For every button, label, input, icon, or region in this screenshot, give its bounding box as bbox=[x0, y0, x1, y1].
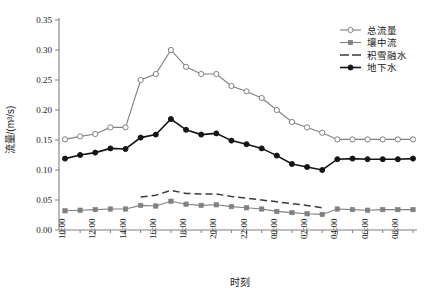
chart-canvas: 0.000.050.100.150.200.250.300.35 10:0012… bbox=[0, 0, 428, 293]
data-point-marker bbox=[350, 156, 355, 161]
data-point-marker bbox=[320, 130, 325, 135]
data-point-marker bbox=[335, 207, 339, 211]
data-point-marker bbox=[289, 119, 294, 124]
data-point-marker bbox=[259, 95, 264, 100]
y-tick-label: 0.10 bbox=[36, 165, 52, 175]
data-point-marker bbox=[411, 207, 415, 211]
x-tick-label: 02:00 bbox=[299, 218, 309, 239]
legend-item-2: 积雪融水 bbox=[340, 50, 407, 61]
data-point-marker bbox=[108, 207, 112, 211]
data-point-marker bbox=[184, 127, 189, 132]
data-point-marker bbox=[168, 47, 173, 52]
y-tick-label: 0.05 bbox=[36, 195, 52, 205]
data-point-marker bbox=[199, 132, 204, 137]
data-point-marker bbox=[380, 137, 385, 142]
x-tick-label: 22:00 bbox=[239, 218, 249, 239]
data-point-marker bbox=[244, 206, 248, 210]
data-point-marker bbox=[93, 131, 98, 136]
x-tick-label: 12:00 bbox=[87, 218, 97, 239]
series-line bbox=[65, 50, 413, 139]
series-1 bbox=[63, 199, 415, 217]
legend-label: 地下水 bbox=[367, 62, 397, 73]
x-tick-label: 16:00 bbox=[148, 218, 158, 239]
data-point-marker bbox=[108, 125, 113, 130]
data-point-marker bbox=[229, 138, 234, 143]
data-point-marker bbox=[138, 77, 143, 82]
flow-hydrograph-chart: 0.000.050.100.150.200.250.300.35 10:0012… bbox=[0, 0, 428, 293]
data-point-marker bbox=[78, 153, 83, 158]
data-point-marker bbox=[153, 132, 158, 137]
data-point-marker bbox=[138, 203, 142, 207]
data-point-marker bbox=[395, 157, 400, 162]
data-point-marker bbox=[214, 203, 218, 207]
data-point-marker bbox=[229, 204, 233, 208]
data-point-marker bbox=[123, 125, 128, 130]
series-line bbox=[65, 201, 413, 214]
data-point-marker bbox=[275, 209, 279, 213]
legend-label: 总流量 bbox=[367, 25, 397, 36]
data-point-marker bbox=[289, 162, 294, 167]
x-tick-label: 04:00 bbox=[329, 218, 339, 239]
data-point-marker bbox=[184, 202, 188, 206]
legend-item-0: 总流量 bbox=[340, 25, 397, 36]
series-3 bbox=[63, 117, 416, 173]
data-point-marker bbox=[183, 64, 188, 69]
data-point-marker bbox=[304, 125, 309, 130]
data-point-marker bbox=[199, 71, 204, 76]
data-point-marker bbox=[259, 146, 264, 151]
x-tick-label: 10:00 bbox=[57, 218, 67, 239]
data-point-marker bbox=[305, 165, 310, 170]
series-line bbox=[65, 119, 413, 170]
data-point-marker bbox=[320, 168, 325, 173]
y-tick-label: 0.30 bbox=[36, 45, 52, 55]
data-point-marker bbox=[305, 212, 309, 216]
data-point-marker bbox=[365, 157, 370, 162]
data-series bbox=[62, 47, 415, 216]
data-point-marker bbox=[154, 204, 158, 208]
data-point-marker bbox=[62, 137, 67, 142]
data-point-marker bbox=[365, 208, 369, 212]
data-point-marker bbox=[396, 207, 400, 211]
data-point-marker bbox=[348, 40, 352, 44]
chart-legend: 总流量壤中流积雪融水地下水 bbox=[340, 25, 407, 74]
data-point-marker bbox=[348, 27, 353, 32]
data-point-marker bbox=[108, 146, 113, 151]
data-point-marker bbox=[199, 203, 203, 207]
data-point-marker bbox=[395, 137, 400, 142]
data-point-marker bbox=[348, 65, 353, 70]
data-point-marker bbox=[229, 83, 234, 88]
x-tick-label: 14:00 bbox=[118, 218, 128, 239]
data-point-marker bbox=[350, 137, 355, 142]
data-point-marker bbox=[335, 157, 340, 162]
data-point-marker bbox=[138, 135, 143, 140]
x-axis-ticks: 10:0012:0014:0016:0018:0020:0022:0000:00… bbox=[57, 218, 413, 239]
data-point-marker bbox=[63, 209, 67, 213]
legend-item-1: 壤中流 bbox=[340, 37, 397, 48]
data-point-marker bbox=[78, 208, 82, 212]
y-tick-label: 0.15 bbox=[36, 135, 52, 145]
data-point-marker bbox=[290, 210, 294, 214]
data-point-marker bbox=[335, 137, 340, 142]
data-point-marker bbox=[63, 156, 68, 161]
data-point-marker bbox=[93, 207, 97, 211]
data-point-marker bbox=[169, 199, 173, 203]
y-tick-label: 0.25 bbox=[36, 75, 52, 85]
legend-label: 积雪融水 bbox=[367, 50, 407, 61]
series-0 bbox=[62, 47, 415, 142]
data-point-marker bbox=[410, 137, 415, 142]
data-point-marker bbox=[93, 150, 98, 155]
data-point-marker bbox=[381, 207, 385, 211]
y-tick-label: 0.00 bbox=[36, 225, 52, 235]
x-tick-label: 08:00 bbox=[390, 218, 400, 239]
data-point-marker bbox=[244, 142, 249, 147]
axes bbox=[59, 18, 417, 230]
x-tick-label: 06:00 bbox=[360, 218, 370, 239]
data-point-marker bbox=[350, 207, 354, 211]
y-tick-label: 0.20 bbox=[36, 105, 52, 115]
data-point-marker bbox=[214, 131, 219, 136]
x-axis-title: 时刻 bbox=[230, 276, 250, 288]
data-point-marker bbox=[365, 137, 370, 142]
data-point-marker bbox=[168, 117, 173, 122]
data-point-marker bbox=[214, 71, 219, 76]
x-tick-label: 00:00 bbox=[269, 218, 279, 239]
